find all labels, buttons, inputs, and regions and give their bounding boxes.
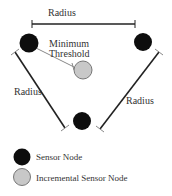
top-radius-label: Radius: [48, 7, 76, 18]
sensor-node-top-right: [134, 33, 152, 51]
legend-incremental-label: Incremental Sensor Node: [36, 173, 127, 183]
legend-incremental-icon: [14, 169, 31, 186]
sensor-node-top-left: [20, 34, 39, 53]
sensor-diagram: Radius Radius Radius Minimum Threshold S…: [0, 0, 172, 196]
legend-sensor-icon: [14, 149, 31, 166]
right-radius-line: [96, 49, 163, 132]
top-radius-line: [32, 20, 135, 28]
threshold-label-line2: Threshold: [49, 48, 90, 59]
legend: Sensor Node Incremental Sensor Node: [14, 149, 128, 186]
incremental-sensor-node: [74, 61, 92, 79]
left-radius-label: Radius: [14, 86, 42, 97]
legend-sensor-label: Sensor Node: [36, 152, 82, 162]
sensor-node-bottom: [73, 112, 91, 130]
right-radius-label: Radius: [126, 95, 154, 106]
